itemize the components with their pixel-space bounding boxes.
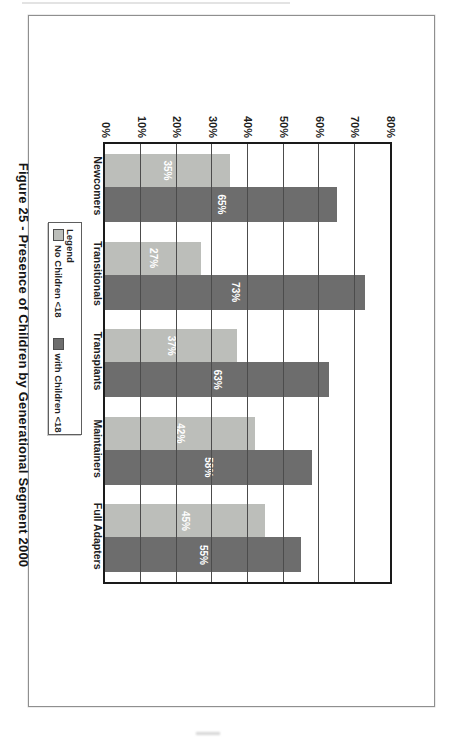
y-tick-label: 0% xyxy=(100,92,112,138)
bar-value-label: 35% xyxy=(162,160,172,180)
bar-with-children: 63% xyxy=(105,362,329,397)
y-tick-label: 10% xyxy=(136,92,148,138)
bar-value-label: 37% xyxy=(166,336,176,356)
bar-no-children: 37% xyxy=(105,329,237,362)
y-tick-label: 50% xyxy=(278,92,290,138)
scanned-page: 0%10%20%30%40%50%60%70%80% 35%65%27%73%3… xyxy=(0,0,453,738)
page-number-smudge xyxy=(196,732,220,735)
legend-swatch xyxy=(53,229,64,241)
category-label: Maintainers xyxy=(92,405,104,493)
legend-item-label: No Children <18 xyxy=(53,245,64,318)
legend-title: Legend xyxy=(65,229,76,428)
bar-with-children: 55% xyxy=(105,537,301,572)
y-tick-label: 40% xyxy=(243,92,255,138)
plot-area: 35%65%27%73%37%63%42%58%45%55% xyxy=(103,142,392,584)
y-tick-label: 20% xyxy=(171,92,183,138)
figure-title: Figure 25 - Presence of Children by Gene… xyxy=(16,130,31,600)
y-tick-label: 70% xyxy=(349,92,361,138)
gridline xyxy=(354,144,355,582)
y-tick-label: 80% xyxy=(385,92,397,138)
gridline xyxy=(176,144,177,582)
category-label: Full Adapters xyxy=(92,492,104,580)
bar-no-children: 42% xyxy=(105,417,255,450)
bar-value-label: 73% xyxy=(230,282,240,302)
y-tick-label: 60% xyxy=(314,92,326,138)
bar-with-children: 58% xyxy=(105,450,312,485)
rotated-chart-content: 0%10%20%30%40%50%60%70%80% 35%65%27%73%3… xyxy=(0,0,453,738)
legend-items: No Children <18with Children <18 xyxy=(53,229,64,428)
bar-no-children: 45% xyxy=(105,504,265,537)
bar-value-label: 55% xyxy=(198,545,208,565)
category-label: Transplants xyxy=(92,317,104,405)
bar-value-label: 45% xyxy=(180,511,190,531)
bar-value-label: 27% xyxy=(148,248,158,268)
gridline xyxy=(211,144,212,582)
legend-item-label: with Children <18 xyxy=(53,354,64,433)
bar-no-children: 27% xyxy=(105,242,201,275)
gridline xyxy=(140,144,141,582)
legend-item: No Children <18 xyxy=(53,229,64,318)
category-label: Transitionals xyxy=(92,230,104,318)
bar-with-children: 73% xyxy=(105,275,365,310)
legend-item: with Children <18 xyxy=(53,338,64,433)
gridline xyxy=(247,144,248,582)
category-label: Newcomers xyxy=(92,142,104,230)
legend-swatch xyxy=(53,338,64,350)
gridline xyxy=(318,144,319,582)
bar-value-label: 63% xyxy=(212,370,222,390)
y-tick-label: 30% xyxy=(207,92,219,138)
legend-box: Legend No Children <18with Children <18 xyxy=(48,222,82,435)
gridline xyxy=(283,144,284,582)
bar-value-label: 65% xyxy=(216,194,226,214)
